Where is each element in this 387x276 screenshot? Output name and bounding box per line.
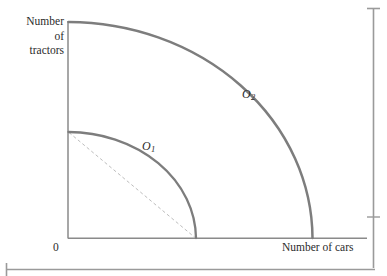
dashed-chord-line: [69, 133, 196, 239]
x-axis-label: Number of cars: [282, 240, 354, 254]
ppf-figure: Number of tractors 0 Number of cars O1 O…: [0, 0, 387, 276]
origin-label: 0: [53, 240, 59, 254]
curve-label-o2-subscript: 2: [251, 92, 255, 102]
curve-label-o1: O1: [142, 139, 155, 154]
y-axis-label-line-3: tractors: [0, 43, 64, 58]
chart-axes: [68, 21, 367, 239]
y-axis-label-line-1: Number: [0, 14, 64, 29]
y-axis-label: Number of tractors: [0, 14, 64, 58]
curve-label-o2: O2: [242, 87, 255, 102]
curve-label-o1-subscript: 1: [151, 144, 155, 154]
curve-label-o2-base: O: [242, 87, 251, 101]
y-axis-label-line-2: of: [0, 29, 64, 44]
curve-label-o1-base: O: [142, 139, 151, 153]
